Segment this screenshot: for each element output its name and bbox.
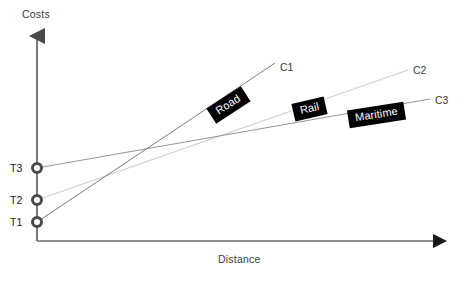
- tier-label-t3: T3: [10, 162, 22, 174]
- y-axis-title: Costs: [22, 8, 50, 20]
- tier-marker-t1: [33, 218, 42, 227]
- curve-end-label-c1: C1: [280, 61, 293, 73]
- tier-label-t1: T1: [10, 216, 22, 228]
- tier-marker-t3: [33, 164, 42, 173]
- tier-marker-t2: [33, 196, 42, 205]
- figure-canvas: Costs Distance T3 T2 T1 C1 C2 C3 Road Ra…: [0, 0, 467, 281]
- x-axis-title: Distance: [218, 253, 260, 265]
- curve-end-label-c3: C3: [435, 94, 448, 106]
- curve-end-label-c2: C2: [413, 64, 426, 76]
- diagram-svg: [0, 0, 467, 281]
- tier-label-t2: T2: [10, 194, 22, 206]
